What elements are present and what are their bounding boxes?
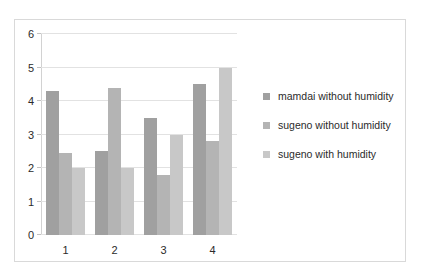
- bar-group: [90, 34, 139, 235]
- bar: [95, 151, 108, 235]
- x-tick-label: 3: [160, 244, 166, 256]
- legend-item[interactable]: sugeno with humidity: [263, 140, 403, 169]
- y-tick-label: 5: [28, 62, 34, 74]
- bar: [170, 135, 183, 236]
- y-tick-label: 0: [28, 229, 34, 241]
- bar-group: [41, 34, 90, 235]
- legend-label: sugeno without humidity: [278, 120, 391, 131]
- bar: [121, 168, 134, 235]
- y-tick-label: 3: [28, 129, 34, 141]
- y-tick-label: 1: [28, 196, 34, 208]
- legend-item[interactable]: mamdai without humidity: [263, 82, 403, 111]
- legend-item[interactable]: sugeno without humidity: [263, 111, 403, 140]
- legend-swatch-icon: [263, 122, 270, 129]
- x-tick-label: 4: [209, 244, 215, 256]
- legend-swatch-icon: [263, 93, 270, 100]
- bar: [108, 88, 121, 235]
- bar: [219, 68, 232, 236]
- x-tick-label: 2: [111, 244, 117, 256]
- bar-chart-figure: 0123456 1234 mamdai without humiditysuge…: [14, 19, 406, 262]
- bar-group: [139, 34, 188, 235]
- bar: [59, 153, 72, 235]
- x-tick-label: 1: [62, 244, 68, 256]
- chart-legend: mamdai without humiditysugeno without hu…: [263, 82, 403, 169]
- y-tick-label: 2: [28, 162, 34, 174]
- y-tick-label: 6: [28, 28, 34, 40]
- legend-label: sugeno with humidity: [278, 149, 376, 160]
- bar-group: [188, 34, 237, 235]
- legend-label: mamdai without humidity: [278, 91, 394, 102]
- plot-area: 0123456 1234: [41, 34, 237, 235]
- bar: [206, 141, 219, 235]
- bar: [46, 91, 59, 235]
- bar: [144, 118, 157, 235]
- bar: [157, 175, 170, 235]
- legend-swatch-icon: [263, 151, 270, 158]
- y-tick-label: 4: [28, 95, 34, 107]
- bar: [193, 84, 206, 235]
- bar: [72, 168, 85, 235]
